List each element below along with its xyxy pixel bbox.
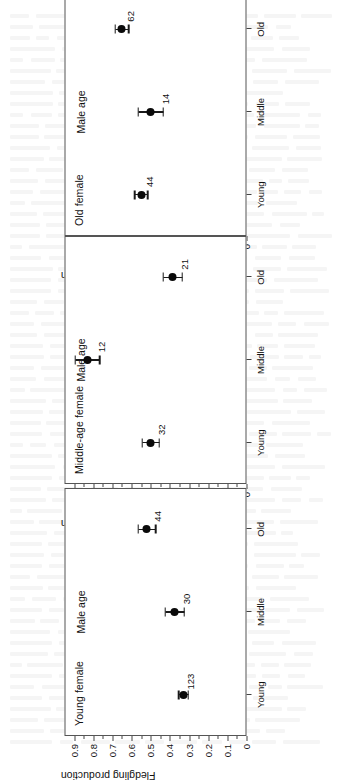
data-point (137, 190, 145, 198)
error-bar-cap-lower (187, 690, 189, 699)
error-bar-cap-lower (159, 438, 161, 447)
sample-size-label: 21 (178, 259, 189, 270)
sample-size-label: 123 (184, 673, 195, 689)
sample-size-label: 44 (144, 176, 155, 187)
data-point (147, 438, 155, 446)
panel-middle-age-female: Middle-age female00.10.20.30.40.50.60.70… (0, 248, 346, 493)
x-tick-label: Old (255, 521, 266, 536)
y-tick-label: 0.7 (107, 744, 118, 757)
x-tick (247, 441, 252, 442)
y-tick-minor (84, 736, 85, 739)
x-tick (247, 611, 252, 612)
y-tick (247, 736, 248, 741)
sample-size-label: 12 (96, 341, 107, 352)
x-tick (247, 693, 252, 694)
panel-title: Young female (73, 660, 85, 725)
data-point (171, 608, 179, 616)
error-bar-cap-upper (114, 24, 116, 33)
sample-size-label: 44 (152, 511, 163, 522)
x-tick-label: Young (255, 429, 266, 456)
y-tick-minor (122, 736, 123, 739)
y-tick-label: 0.2 (203, 744, 214, 757)
y-tick (227, 736, 228, 741)
y-tick-label: 0.8 (88, 744, 99, 757)
data-point (147, 108, 155, 116)
error-bar-cap-lower (183, 607, 185, 616)
x-tick-label: Old (255, 269, 266, 284)
y-tick (151, 736, 152, 741)
data-point (143, 525, 151, 533)
error-bar-cap-upper (162, 272, 164, 281)
error-bar-cap-upper (137, 524, 139, 533)
error-bar-cap-lower (162, 107, 164, 116)
y-tick (170, 736, 171, 741)
x-tick-label: Middle (255, 98, 266, 126)
y-tick-label: 0 (241, 744, 252, 749)
y-tick-label: 0.6 (126, 744, 137, 757)
plot-area (65, 0, 247, 236)
y-tick (74, 736, 75, 741)
x-tick-label: Middle (255, 346, 266, 374)
y-tick-label: 0.1 (222, 744, 233, 757)
y-tick-minor (160, 736, 161, 739)
y-tick (93, 736, 94, 741)
y-tick-label: 0.4 (164, 744, 175, 757)
y-tick (112, 736, 113, 741)
error-bar-cap-lower (182, 272, 184, 281)
y-tick-label: 0.5 (145, 744, 156, 757)
y-tick-minor (237, 736, 238, 739)
x-tick-label: Middle (255, 598, 266, 626)
y-axis-title: Fledgling production (61, 770, 156, 782)
data-point (179, 690, 187, 698)
y-tick-minor (179, 736, 180, 739)
error-bar-cap-lower (99, 355, 101, 364)
x-tick-label: Young (255, 681, 266, 708)
error-bar-cap-upper (137, 107, 139, 116)
data-point (169, 273, 177, 281)
y-tick-minor (103, 736, 104, 739)
x-tick (247, 359, 252, 360)
x-tick-label: Young (255, 181, 266, 208)
sample-size-label: 30 (180, 593, 191, 604)
y-tick-minor (141, 736, 142, 739)
error-bar-cap-lower (147, 190, 149, 199)
x-tick (247, 193, 252, 194)
error-bar-cap-lower (155, 524, 157, 533)
sample-size-label: 32 (155, 424, 166, 435)
y-tick-minor (199, 736, 200, 739)
y-tick-label: 0.9 (69, 744, 80, 757)
x-axis-title: Male age (75, 90, 87, 133)
y-tick-minor (218, 736, 219, 739)
data-point (118, 25, 126, 33)
x-tick (247, 276, 252, 277)
error-bar-cap-lower (128, 24, 130, 33)
panel-young-female: Young female00.10.20.30.40.50.60.70.80.9… (0, 500, 346, 745)
data-point (83, 356, 91, 364)
x-tick (247, 528, 252, 529)
error-bar-cap-upper (74, 355, 76, 364)
y-tick (132, 736, 133, 741)
sample-size-label: 62 (125, 11, 136, 22)
error-bar-cap-upper (134, 190, 136, 199)
y-tick-label: 0.3 (184, 744, 195, 757)
x-axis-title: Male age (75, 590, 87, 633)
x-tick (247, 111, 252, 112)
y-tick (189, 736, 190, 741)
error-bar-cap-upper (141, 438, 143, 447)
y-tick (208, 736, 209, 741)
x-tick (247, 28, 252, 29)
sample-size-label: 14 (159, 93, 170, 104)
error-bar-cap-upper (164, 607, 166, 616)
x-tick-label: Old (255, 21, 266, 36)
